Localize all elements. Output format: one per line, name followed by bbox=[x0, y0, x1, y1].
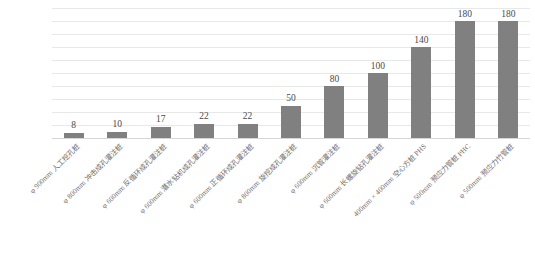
bar[interactable] bbox=[64, 133, 84, 138]
bar-slot: 180 bbox=[487, 8, 530, 138]
bar[interactable] bbox=[151, 127, 171, 138]
bar[interactable] bbox=[107, 132, 127, 139]
bar-value-label: 50 bbox=[286, 94, 296, 104]
bar-slot: 8 bbox=[52, 8, 95, 138]
bar-value-label: 22 bbox=[243, 112, 253, 122]
bar[interactable] bbox=[194, 124, 214, 138]
bar[interactable] bbox=[281, 106, 301, 139]
category-label: 400mm × 400mm 空心方桩 PHS bbox=[351, 141, 428, 218]
category-axis-labels: φ 900mm 人工挖孔桩φ 800mm 冲击成孔灌注桩φ 600mm 反循环成… bbox=[52, 139, 530, 249]
bar[interactable] bbox=[411, 47, 431, 138]
bar-value-label: 100 bbox=[371, 62, 385, 72]
bar[interactable] bbox=[324, 86, 344, 138]
bar-slot: 22 bbox=[226, 8, 269, 138]
bar-value-label: 17 bbox=[156, 115, 166, 125]
bar-slot: 50 bbox=[269, 8, 312, 138]
bar-value-label: 180 bbox=[501, 10, 515, 20]
bar-value-label: 140 bbox=[414, 36, 428, 46]
bar-slot: 17 bbox=[139, 8, 182, 138]
bar-slot: 10 bbox=[95, 8, 138, 138]
figure-caption bbox=[0, 261, 535, 272]
bar[interactable] bbox=[498, 21, 518, 138]
bars-layer: 8101722225080100140180180 bbox=[52, 8, 530, 138]
bar-value-label: 22 bbox=[199, 112, 209, 122]
bar[interactable] bbox=[368, 73, 388, 138]
bar-value-label: 80 bbox=[330, 75, 340, 85]
bar-slot: 80 bbox=[313, 8, 356, 138]
bar-slot: 100 bbox=[356, 8, 399, 138]
bar-slot: 180 bbox=[443, 8, 486, 138]
bar[interactable] bbox=[455, 21, 475, 138]
bar-chart: 8101722225080100140180180 φ 900mm 人工挖孔桩φ… bbox=[0, 0, 535, 272]
bar-value-label: 180 bbox=[458, 10, 472, 20]
plot-area: 8101722225080100140180180 bbox=[52, 8, 530, 138]
bar-value-label: 10 bbox=[112, 120, 122, 130]
bar-value-label: 8 bbox=[71, 121, 76, 131]
bar-slot: 22 bbox=[182, 8, 225, 138]
bar-slot: 140 bbox=[400, 8, 443, 138]
bar[interactable] bbox=[238, 124, 258, 138]
